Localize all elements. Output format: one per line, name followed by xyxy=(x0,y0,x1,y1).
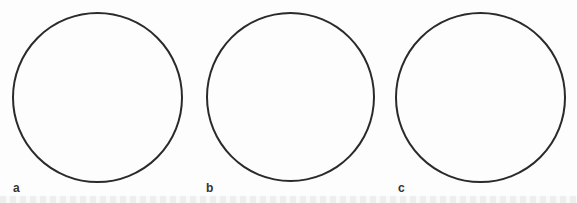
panel-label-b: b xyxy=(206,182,213,194)
bleed-through-texture xyxy=(0,196,577,203)
panel-c: c xyxy=(384,0,577,203)
panel-label-c: c xyxy=(398,182,405,194)
circle-c xyxy=(395,12,566,183)
panel-b: b xyxy=(192,0,384,203)
panel-label-a: a xyxy=(13,182,20,194)
figure: a b c xyxy=(0,0,577,203)
panel-a: a xyxy=(0,0,192,203)
circle-a xyxy=(12,12,183,183)
circle-b xyxy=(206,12,375,182)
